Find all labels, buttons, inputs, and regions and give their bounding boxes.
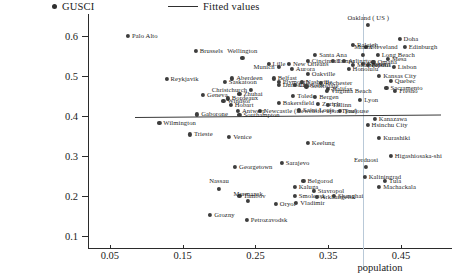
data-point[interactable] <box>306 141 310 145</box>
data-point[interactable] <box>397 37 401 41</box>
data-point[interactable] <box>384 86 388 90</box>
x-tick-label: 0.45 <box>392 250 410 261</box>
data-point-label: Wellington <box>227 48 257 55</box>
legend-item-fitted-values[interactable]: Fitted values <box>168 1 260 12</box>
y-tick-label: 0.1 <box>44 231 78 242</box>
data-point[interactable] <box>376 53 380 57</box>
y-tick-label: 0.2 <box>44 191 78 202</box>
data-point[interactable] <box>229 103 233 107</box>
data-point[interactable] <box>290 67 294 71</box>
data-point-label: Oakland ( US ) <box>348 15 390 22</box>
data-point-label: Petrozavodsk <box>251 217 288 224</box>
data-point[interactable] <box>306 72 310 76</box>
data-point-label: Fresno <box>399 88 418 95</box>
data-point-label: Saskatoon <box>229 78 257 85</box>
legend-item-gusci[interactable]: GUSCI <box>52 1 95 12</box>
x-axis-title: population <box>358 262 403 273</box>
x-tick-label: 0.05 <box>101 250 119 261</box>
data-point-label: Keelung <box>312 140 335 147</box>
data-point[interactable] <box>389 154 393 158</box>
data-point[interactable] <box>217 187 221 191</box>
data-point[interactable] <box>364 165 368 169</box>
data-point[interactable] <box>208 213 212 217</box>
x-tick-label: 0.25 <box>246 250 264 261</box>
y-tick-mark <box>82 156 88 157</box>
data-point-label: Brussels <box>200 48 223 55</box>
y-tick-label: 0.3 <box>44 151 78 162</box>
data-point-label: Lisbon <box>398 64 417 71</box>
x-tick-label: 0.35 <box>319 250 337 261</box>
data-point[interactable] <box>365 123 369 127</box>
data-point-label: Sarajevo <box>286 160 310 167</box>
data-point-label: Zhuhai <box>243 90 262 97</box>
data-point-label: Vladimir <box>300 200 325 207</box>
data-point[interactable] <box>277 83 281 87</box>
data-point[interactable] <box>358 98 362 102</box>
data-point-label: Murmansk <box>233 191 262 198</box>
data-point[interactable] <box>240 56 244 60</box>
x-tick-mark <box>110 245 111 249</box>
data-point[interactable] <box>403 45 407 49</box>
data-point[interactable] <box>227 135 231 139</box>
data-point[interactable] <box>188 132 192 136</box>
data-point-label: Eerduosi <box>354 157 378 164</box>
data-point[interactable] <box>366 23 370 27</box>
y-axis <box>88 14 89 248</box>
data-point[interactable] <box>245 218 249 222</box>
data-point[interactable] <box>293 185 297 189</box>
data-point[interactable] <box>393 89 397 93</box>
x-tick-mark <box>255 245 256 249</box>
legend-line-icon <box>168 6 198 7</box>
data-point-label: Reykjavik <box>171 76 199 83</box>
data-point[interactable] <box>201 93 205 97</box>
data-point[interactable] <box>272 76 276 80</box>
data-point[interactable] <box>280 161 284 165</box>
data-point[interactable] <box>221 99 225 103</box>
data-point[interactable] <box>347 67 351 71</box>
data-point-label: Gaborone <box>201 111 228 118</box>
data-point-label: Venice <box>233 134 252 141</box>
data-point[interactable] <box>389 79 393 83</box>
data-point-label: Christchurch <box>212 87 247 94</box>
data-point[interactable] <box>392 65 396 69</box>
data-point[interactable] <box>291 94 295 98</box>
data-point[interactable] <box>294 201 298 205</box>
data-point-label: Edinburgh <box>409 44 438 51</box>
y-tick-mark <box>82 236 88 237</box>
legend-label: GUSCI <box>62 1 95 12</box>
data-point-label: Wilmington <box>163 120 196 127</box>
data-point-label: Saint Louis <box>303 107 334 114</box>
data-point[interactable] <box>157 121 161 125</box>
data-point[interactable] <box>246 199 250 203</box>
x-tick-mark <box>328 245 329 249</box>
data-point[interactable] <box>377 185 381 189</box>
data-point-label: Southampton <box>243 112 279 119</box>
data-point[interactable] <box>363 175 367 179</box>
data-point-label: Nassau <box>209 179 229 186</box>
data-point[interactable] <box>165 77 169 81</box>
scatter-plot: GUSCIFitted values 0.10.20.30.40.50.6 0.… <box>0 0 460 279</box>
x-axis <box>88 248 452 249</box>
data-point[interactable] <box>274 202 278 206</box>
data-point-label: Trieste <box>194 131 213 138</box>
data-point-label: Nantes <box>367 61 386 68</box>
data-point-label: Shanghai <box>338 193 363 200</box>
data-point[interactable] <box>377 136 381 140</box>
x-tick-mark <box>401 245 402 249</box>
data-point[interactable] <box>277 101 281 105</box>
data-point[interactable] <box>293 194 297 198</box>
data-point[interactable] <box>126 34 130 38</box>
data-point-label: Munich <box>254 64 275 71</box>
data-point[interactable] <box>223 80 227 84</box>
data-point-label: Georgetown <box>239 164 272 171</box>
x-tick-label: 0.15 <box>173 250 191 261</box>
data-point[interactable] <box>287 62 291 66</box>
data-point[interactable] <box>233 165 237 169</box>
data-point[interactable] <box>194 49 198 53</box>
data-point-label: Grozny <box>214 212 234 219</box>
data-point[interactable] <box>277 65 281 69</box>
data-point-label: Toulouse <box>344 108 369 115</box>
data-point-label: Oakville <box>312 71 336 78</box>
data-point[interactable] <box>377 74 381 78</box>
y-tick-label: 0.5 <box>44 71 78 82</box>
